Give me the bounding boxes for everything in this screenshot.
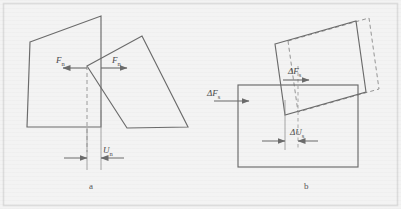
panel-b-graphics — [214, 18, 379, 167]
figure-container: Fn Fn Un a ΔFs ΔFs ΔUs b — [0, 0, 401, 209]
panel-b-displaced-parallelogram — [288, 18, 379, 112]
figure-frame — [4, 4, 398, 206]
panel-a-right-block — [87, 36, 188, 128]
panel-a-caption: a — [89, 181, 93, 191]
panel-b-shear-force-label-left: ΔFs — [207, 89, 220, 100]
panel-b-caption: b — [304, 181, 309, 191]
figure-vector-graphics — [0, 0, 401, 209]
panel-a-force-label-left: Fn — [56, 56, 65, 67]
panel-b-shear-force-label-inner: ΔFs — [288, 67, 301, 78]
panel-a-displacement-label: Un — [103, 146, 113, 157]
panel-a-force-label-right: Fn — [112, 56, 121, 67]
panel-b-shear-displacement-label: ΔUs — [290, 128, 304, 139]
